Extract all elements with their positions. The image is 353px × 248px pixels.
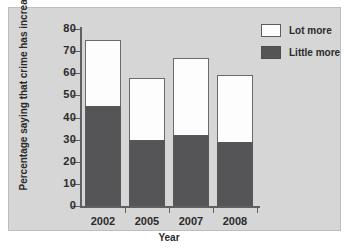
bar-segment-little-more — [173, 135, 209, 206]
plot-area: 01020304050607080 — [81, 29, 257, 206]
x-tick-mark — [257, 206, 258, 213]
chart-figure: 01020304050607080 2002200520072008 Year … — [8, 7, 341, 231]
bar-stack — [173, 58, 209, 206]
bar-stack — [85, 40, 121, 206]
y-tick-label: 50 — [63, 88, 76, 100]
bar-segment-lot-more — [173, 58, 209, 135]
y-tick-label: 80 — [63, 22, 76, 34]
bar-segment-little-more — [129, 140, 165, 206]
bar-stack — [129, 78, 165, 206]
y-tick-label: 70 — [63, 44, 76, 56]
x-tick-label: 2007 — [167, 215, 215, 227]
x-tick-label: 2002 — [79, 215, 127, 227]
chart-legend: Lot moreLittle more — [261, 24, 340, 68]
bar-segment-lot-more — [85, 40, 121, 106]
x-tick-label: 2008 — [211, 215, 259, 227]
x-tick-mark — [213, 206, 214, 213]
y-tick-label: 40 — [63, 111, 76, 123]
y-tick-label: 30 — [63, 133, 76, 145]
bar-segment-little-more — [217, 142, 253, 206]
bar-segment-little-more — [85, 106, 121, 206]
y-tick-label: 0 — [70, 199, 76, 211]
bar-segment-lot-more — [217, 75, 253, 141]
y-tick-label: 60 — [63, 66, 76, 78]
bar-segment-lot-more — [129, 78, 165, 140]
y-axis-title: Percentage saying that crime has increas… — [18, 5, 29, 191]
x-axis-line — [80, 206, 260, 208]
x-tick-label: 2005 — [123, 215, 171, 227]
y-tick-label: 20 — [63, 155, 76, 167]
legend-label: Lot more — [289, 25, 332, 36]
legend-label: Little more — [289, 47, 340, 58]
legend-swatch-lot-more — [261, 24, 281, 37]
x-tick-mark — [169, 206, 170, 213]
x-axis-title: Year — [81, 232, 257, 243]
bar-stack — [217, 75, 253, 206]
legend-swatch-little-more — [261, 46, 281, 59]
legend-item: Little more — [261, 46, 340, 59]
x-tick-mark — [125, 206, 126, 213]
legend-item: Lot more — [261, 24, 340, 37]
y-tick-label: 10 — [63, 177, 76, 189]
